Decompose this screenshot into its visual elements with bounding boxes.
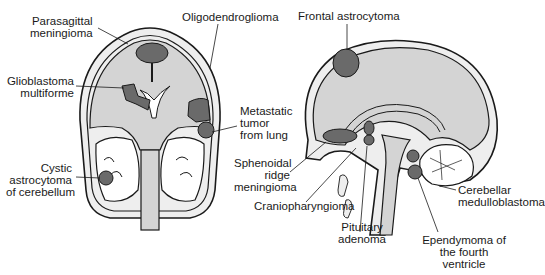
label-parasagittal-meningioma: Parasagittal meningioma [30,15,93,39]
label-line: astrocytoma [6,174,72,186]
label-line: Pituitary [336,221,388,233]
label-line: Sphenoidal [234,157,290,169]
label-line: Cerebellar [458,184,545,196]
label-line: meningioma [30,27,93,39]
label-line: ridge [234,169,290,181]
label-line: Ependymoma of [420,234,508,246]
label-line: Metastatic [240,105,292,117]
label-sphenoidal-ridge-meningioma: Sphenoidal ridge meningioma [234,157,290,193]
label-cystic-astrocytoma: Cystic astrocytoma of cerebellum [6,162,72,198]
label-line: medulloblastoma [458,196,545,208]
label-craniopharyngioma: Craniopharyngioma [254,200,354,212]
label-oligodendroglioma: Oligodendroglioma [182,11,279,23]
label-line: Glioblastoma [6,75,74,87]
label-cerebellar-medulloblastoma: Cerebellar medulloblastoma [458,184,545,208]
label-frontal-astrocytoma: Frontal astrocytoma [298,10,400,22]
label-glioblastoma-multiforme: Glioblastoma multiforme [6,75,74,99]
label-line: Parasagittal [30,15,93,27]
label-line: multiforme [6,87,74,99]
label-line: adenoma [336,233,388,245]
label-pituitary-adenoma: Pituitary adenoma [336,221,388,245]
coronal-brain-section [76,24,237,230]
label-line: Cystic [6,162,72,174]
label-line: meningioma [234,181,290,193]
label-line: of cerebellum [6,186,72,198]
label-metastatic-tumor-from-lung: Metastatic tumor from lung [240,105,292,141]
label-ependymoma-fourth-ventricle: Ependymoma of the fourth ventricle [420,234,508,270]
label-line: the fourth [420,246,508,258]
label-line: tumor [240,117,292,129]
label-line: ventricle [420,258,508,270]
label-line: from lung [240,129,292,141]
